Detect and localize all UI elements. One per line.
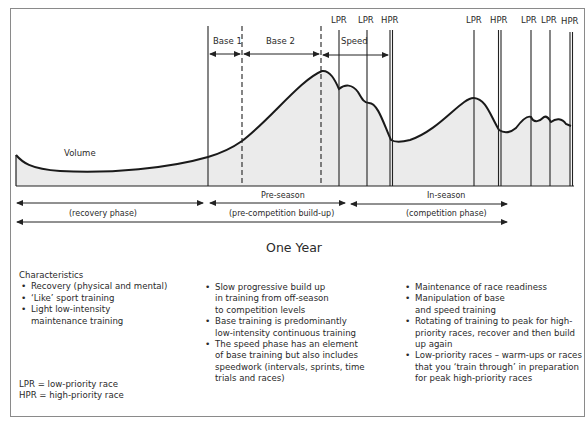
volume-area <box>16 71 571 186</box>
race-label-lpr-4: LPR <box>521 16 537 25</box>
precomp-phase-label: (pre-competition build-up) <box>229 210 334 218</box>
race-label-hpr-2: HPR <box>490 16 507 25</box>
inseason-item: Low-priority races – warm-ups or races t… <box>403 350 585 384</box>
recovery-phase-label: (recovery phase) <box>69 210 137 218</box>
legend: LPR = low-priority race HPR = high-prior… <box>19 379 189 402</box>
one-year-title: One Year <box>0 240 588 255</box>
legend-lpr: LPR = low-priority race <box>19 379 189 390</box>
preseason-item: Slow progressive build up in training fr… <box>203 282 335 316</box>
recovery-characteristics: Characteristics Recovery (physical and m… <box>19 270 189 327</box>
recovery-item: Light low-intensity maintenance training <box>19 304 151 327</box>
speed-label: Speed <box>341 37 368 46</box>
recovery-item: Recovery (physical and mental) <box>19 281 189 292</box>
inseason-label: In-season <box>427 192 465 200</box>
volume-label: Volume <box>64 149 96 158</box>
preseason-item: The speed phase has an element of base t… <box>203 339 365 385</box>
base1-label: Base 1 <box>213 37 242 46</box>
base2-label: Base 2 <box>266 37 295 46</box>
characteristics-heading: Characteristics <box>19 270 189 281</box>
race-label-lpr-1: LPR <box>331 16 347 25</box>
inseason-item: Manipulation of base and speed training <box>403 293 515 316</box>
preseason-label: Pre-season <box>261 192 305 200</box>
comp-phase-label: (competition phase) <box>406 210 487 218</box>
legend-hpr: HPR = high-priority race <box>19 390 189 401</box>
race-label-lpr-5: LPR <box>541 16 557 25</box>
race-label-hpr-1: HPR <box>381 16 398 25</box>
inseason-characteristics: Maintenance of race readiness Manipulati… <box>403 282 579 385</box>
inseason-item: Maintenance of race readiness <box>403 282 579 293</box>
race-label-lpr-3: LPR <box>466 16 482 25</box>
race-label-lpr-2: LPR <box>358 16 374 25</box>
race-label-hpr-3: HPR <box>561 17 578 26</box>
recovery-item: ‘Like’ sport training <box>19 293 189 304</box>
preseason-item: Base training is predominantly low-inten… <box>203 316 365 339</box>
preseason-characteristics: Slow progressive build up in training fr… <box>203 282 363 385</box>
inseason-item: Rotating of training to peak for high-pr… <box>403 316 585 350</box>
